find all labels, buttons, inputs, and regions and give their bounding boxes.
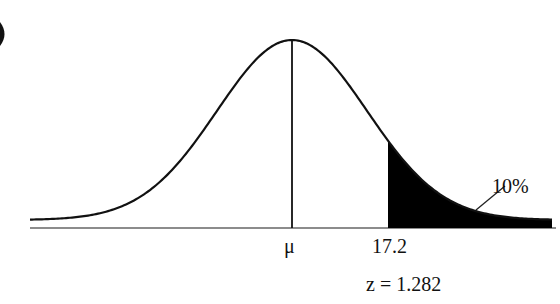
normal-curve <box>30 40 552 220</box>
mean-label: μ <box>284 236 295 256</box>
cropped-part-label-mark <box>0 22 5 46</box>
tail-percent-label: 10% <box>492 176 529 196</box>
z-score-label: z = 1.282 <box>366 274 441 294</box>
cutoff-label: 17.2 <box>372 236 407 256</box>
normal-curve-diagram <box>0 0 560 304</box>
